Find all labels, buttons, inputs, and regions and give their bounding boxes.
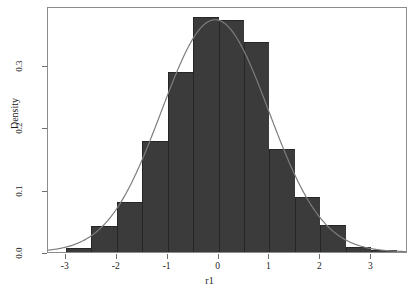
y-axis-tick-label-text: 0.1 xyxy=(14,171,24,211)
plot-panel xyxy=(47,7,407,253)
x-axis-tick-label: -3 xyxy=(50,261,80,271)
x-axis-tick-label: 1 xyxy=(253,261,283,271)
x-axis-tick xyxy=(268,254,269,259)
x-axis-title: r1 xyxy=(0,275,419,286)
plot-area xyxy=(48,8,406,252)
y-axis-title: Density xyxy=(9,74,20,154)
y-axis-tick-label: 0.0 xyxy=(0,248,39,258)
density-curve xyxy=(48,8,406,252)
x-axis-tick-label: 3 xyxy=(355,261,385,271)
x-axis-tick xyxy=(116,254,117,259)
x-axis-tick xyxy=(218,254,219,259)
x-axis-tick xyxy=(167,254,168,259)
x-axis-tick-label: -2 xyxy=(101,261,131,271)
x-axis-tick xyxy=(370,254,371,259)
y-axis-tick-label: 0.2 xyxy=(0,123,39,133)
x-axis-tick-label: -1 xyxy=(152,261,182,271)
y-axis-tick xyxy=(42,191,47,192)
y-axis-tick-label: 0.1 xyxy=(0,186,39,196)
y-axis-tick xyxy=(42,66,47,67)
x-axis-tick-label: 0 xyxy=(203,261,233,271)
y-axis-tick-label: 0.3 xyxy=(0,61,39,71)
density-curve-path xyxy=(48,20,406,252)
density-histogram-figure: 0.00.10.20.3 -3-2-10123 r1 Density xyxy=(0,0,419,295)
x-axis-tick-label: 2 xyxy=(304,261,334,271)
x-axis-tick xyxy=(65,254,66,259)
y-axis-tick xyxy=(42,128,47,129)
x-axis-tick xyxy=(319,254,320,259)
y-axis-tick xyxy=(42,253,47,254)
y-axis-tick-label-text: 0.0 xyxy=(14,233,24,273)
